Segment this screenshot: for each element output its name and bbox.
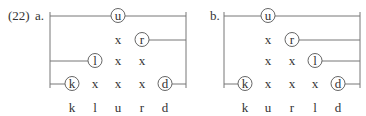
circled-letter: d xyxy=(162,76,169,91)
cell-mark: x xyxy=(139,53,146,68)
column-label: d xyxy=(335,100,342,115)
column-label: k xyxy=(69,100,76,115)
circled-letter: r xyxy=(290,32,295,47)
cell-mark: x xyxy=(115,32,122,47)
circled-letter: r xyxy=(140,32,145,47)
cell-mark: x xyxy=(92,76,99,91)
cell-mark: x xyxy=(115,53,122,68)
cell-mark: x xyxy=(289,76,296,91)
cell-mark: x xyxy=(312,76,319,91)
column-label: d xyxy=(162,100,169,115)
circled-letter: l xyxy=(93,53,97,68)
cell-mark: x xyxy=(289,53,296,68)
ordering-diagram: (22) a.uxrlxxkxxxdklurdb.uxrxxlkxxxdkurl… xyxy=(0,0,366,116)
column-label: r xyxy=(140,100,145,115)
circled-letter: k xyxy=(69,76,76,91)
example-number: (22) xyxy=(8,8,30,23)
circled-letter: d xyxy=(335,76,342,91)
column-label: u xyxy=(265,100,272,115)
circled-letter: l xyxy=(313,53,317,68)
column-label: u xyxy=(115,100,122,115)
column-label: l xyxy=(313,100,317,115)
column-label: l xyxy=(93,100,97,115)
cell-mark: x xyxy=(139,76,146,91)
cell-mark: x xyxy=(265,76,272,91)
panel-label: b. xyxy=(210,8,220,23)
panel-a: a.uxrlxxkxxxdklurd xyxy=(35,8,186,115)
column-label: r xyxy=(290,100,295,115)
cell-mark: x xyxy=(265,32,272,47)
panel-b: b.uxrxxlkxxxdkurld xyxy=(210,8,360,115)
circled-letter: k xyxy=(242,76,249,91)
column-label: k xyxy=(242,100,249,115)
circled-letter: u xyxy=(115,8,122,23)
circled-letter: u xyxy=(265,8,272,23)
panel-label: a. xyxy=(35,8,44,23)
cell-mark: x xyxy=(115,76,122,91)
cell-mark: x xyxy=(265,53,272,68)
